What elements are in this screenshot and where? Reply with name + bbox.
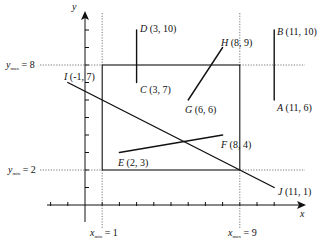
y-axis-label: y	[71, 1, 77, 12]
segment-GH	[188, 48, 222, 101]
point-label-E: E (2, 3)	[117, 157, 148, 169]
y-ticks	[85, 30, 89, 188]
segments	[68, 30, 274, 188]
point-label-C: C (3, 7)	[140, 84, 171, 96]
x-axis-label: x	[299, 208, 305, 219]
point-label-G: G (6, 6)	[185, 104, 216, 116]
xmax-label: xmax = 9	[227, 227, 257, 239]
ymin-label: ymin = 2	[7, 164, 36, 176]
segment-EF	[119, 135, 222, 153]
clip-window	[102, 65, 240, 170]
point-label-H: H (8, 9)	[220, 37, 252, 49]
point-label-A: A (11, 6)	[276, 102, 312, 114]
point-label-D: D (3, 10)	[139, 23, 176, 35]
segment-IJ	[68, 83, 274, 188]
dotted-guides	[40, 13, 305, 228]
axes	[47, 15, 300, 222]
point-label-B: B (11, 10)	[277, 26, 317, 38]
point-label-J: J (11, 1)	[278, 186, 311, 198]
point-label-I: I (-1, 7)	[63, 71, 95, 83]
xmin-label: xmin = 1	[89, 227, 118, 239]
clipping-diagram: y x ymax = 8 ymin = 2 xmin = 1 xmax = 9 …	[0, 0, 323, 247]
point-label-F: F (8, 4)	[220, 139, 251, 151]
ymax-label: ymax = 8	[5, 59, 35, 71]
